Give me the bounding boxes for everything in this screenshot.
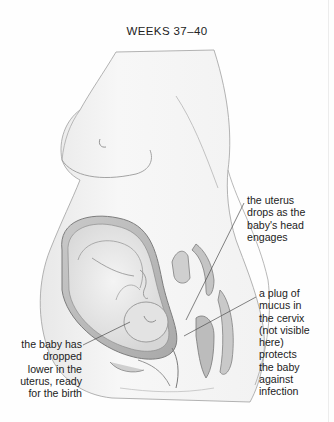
label-line: drops as the <box>247 206 305 218</box>
label-line: the baby has <box>20 338 82 350</box>
label-line: mucus in <box>259 299 310 311</box>
label-line: the uterus <box>247 194 305 206</box>
label-line: for the birth <box>20 387 82 399</box>
label-line: uterus, ready <box>20 375 82 387</box>
label-line: the cervix <box>259 312 310 324</box>
label-line: the baby <box>259 361 310 373</box>
label-uterus-drops: the uterus drops as the baby's head enga… <box>247 194 305 243</box>
label-line: against <box>259 373 310 385</box>
label-line: lower in the <box>20 363 82 375</box>
label-line: here) <box>259 336 310 348</box>
label-line: (not visible <box>259 324 310 336</box>
label-line: engages <box>247 231 305 243</box>
label-line: infection <box>259 385 310 397</box>
page-edge-divider <box>328 0 329 422</box>
label-line: protects <box>259 348 310 360</box>
label-line: dropped <box>20 350 82 362</box>
page: WEEKS 37–40 <box>0 0 334 422</box>
label-mucus-plug: a plug of mucus in the cervix (not visib… <box>259 287 310 398</box>
label-line: a plug of <box>259 287 310 299</box>
label-line: baby's head <box>247 219 305 231</box>
label-baby-dropped: the baby has dropped lower in the uterus… <box>20 338 82 399</box>
